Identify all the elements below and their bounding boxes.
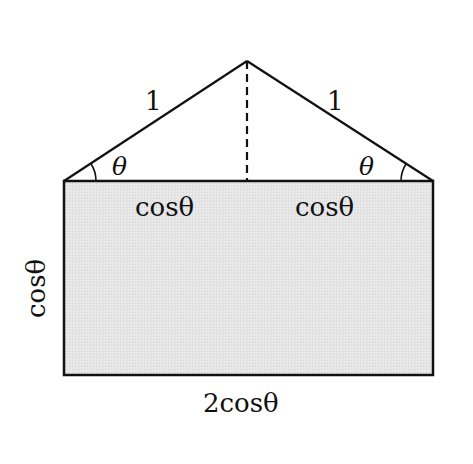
left-angle-label: θ: [112, 152, 127, 181]
right-angle-label: θ: [359, 152, 374, 181]
top-left-segment-label: cosθ: [135, 192, 194, 222]
triangle-left-side: [64, 61, 247, 181]
top-right-segment-label: cosθ: [295, 192, 354, 222]
geometry-diagram: 1 1 θ θ cosθ cosθ cosθ 2cosθ: [0, 0, 473, 464]
left-angle-arc: [91, 164, 96, 182]
shaded-rectangle: [64, 181, 433, 375]
right-angle-arc: [401, 164, 406, 181]
left-side-rect-label: cosθ: [21, 259, 51, 318]
bottom-label: 2cosθ: [203, 388, 279, 418]
left-side-label: 1: [145, 86, 162, 116]
right-side-label: 1: [327, 86, 344, 116]
triangle-right-side: [247, 61, 433, 181]
